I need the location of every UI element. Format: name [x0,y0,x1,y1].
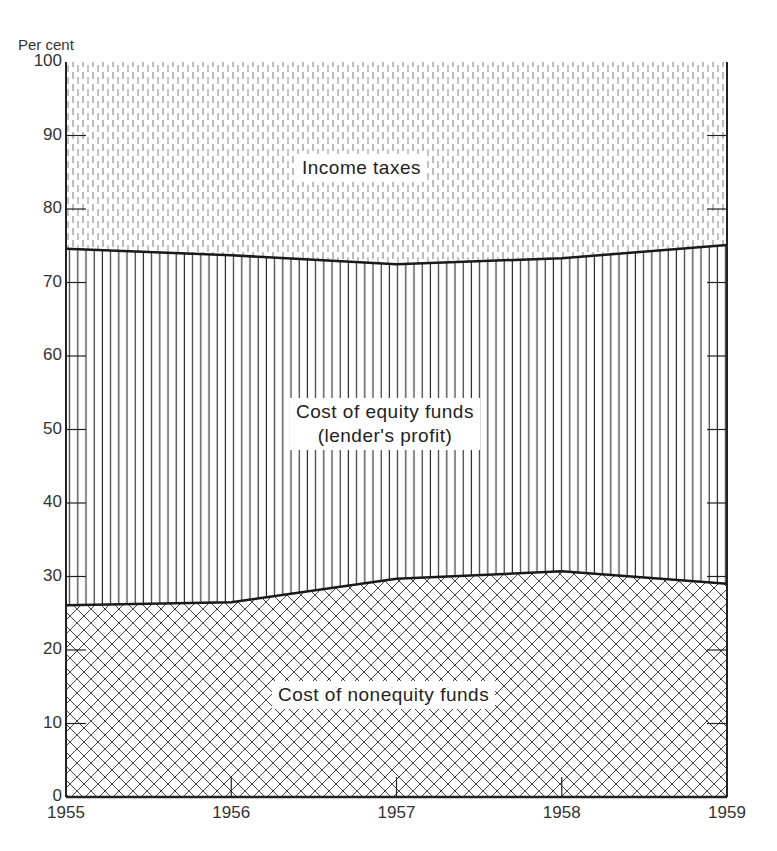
y-tick-label: 10 [22,713,62,733]
equity-line1: Cost of equity funds [296,400,474,424]
x-tick-label: 1956 [201,803,261,823]
y-tick-label: 40 [22,492,62,512]
x-tick-label: 1957 [367,803,427,823]
y-tick-label: 60 [22,345,62,365]
y-tick-label: 90 [22,125,62,145]
y-tick-label: 30 [22,566,62,586]
y-tick-label: 100 [22,51,62,71]
y-tick-label: 80 [22,198,62,218]
nonequity-text: Cost of nonequity funds [278,684,489,705]
income-taxes-text: Income taxes [302,157,421,178]
x-tick-label: 1958 [532,803,592,823]
x-tick-label: 1955 [36,803,96,823]
y-tick-label: 20 [22,639,62,659]
y-tick-label: 50 [22,419,62,439]
label-equity-funds: Cost of equity funds (lender's profit) [290,398,480,450]
label-nonequity-funds: Cost of nonequity funds [272,681,495,709]
x-tick-label: 1959 [697,803,757,823]
y-tick-label: 70 [22,272,62,292]
equity-line2: (lender's profit) [296,424,474,448]
label-income-taxes: Income taxes [296,154,427,182]
